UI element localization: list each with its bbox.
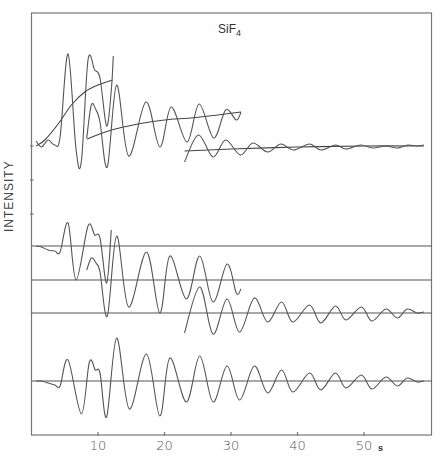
chart-frame [32, 13, 432, 435]
intensity-trace [36, 54, 113, 169]
intensity-trace [87, 85, 241, 168]
intensity-trace [36, 338, 424, 418]
x-tick-label: 30 [223, 438, 240, 453]
fitted-background-curves [36, 80, 424, 151]
intensity-trace [185, 287, 424, 334]
x-tick-label: 50 [356, 438, 373, 453]
x-tick-label: 10 [90, 438, 107, 453]
title-main: SiF [218, 22, 236, 36]
x-axis-unit: s [378, 443, 383, 453]
y-axis-label: INTENSITY [2, 160, 16, 232]
chart-plot-area [0, 0, 441, 460]
chart-title: SiF4 [218, 22, 241, 38]
intensity-trace [185, 135, 424, 162]
intensity-traces [36, 54, 424, 418]
x-tick-label: 40 [289, 438, 306, 453]
title-subscript: 4 [236, 28, 241, 38]
x-tick-label: 20 [156, 438, 173, 453]
